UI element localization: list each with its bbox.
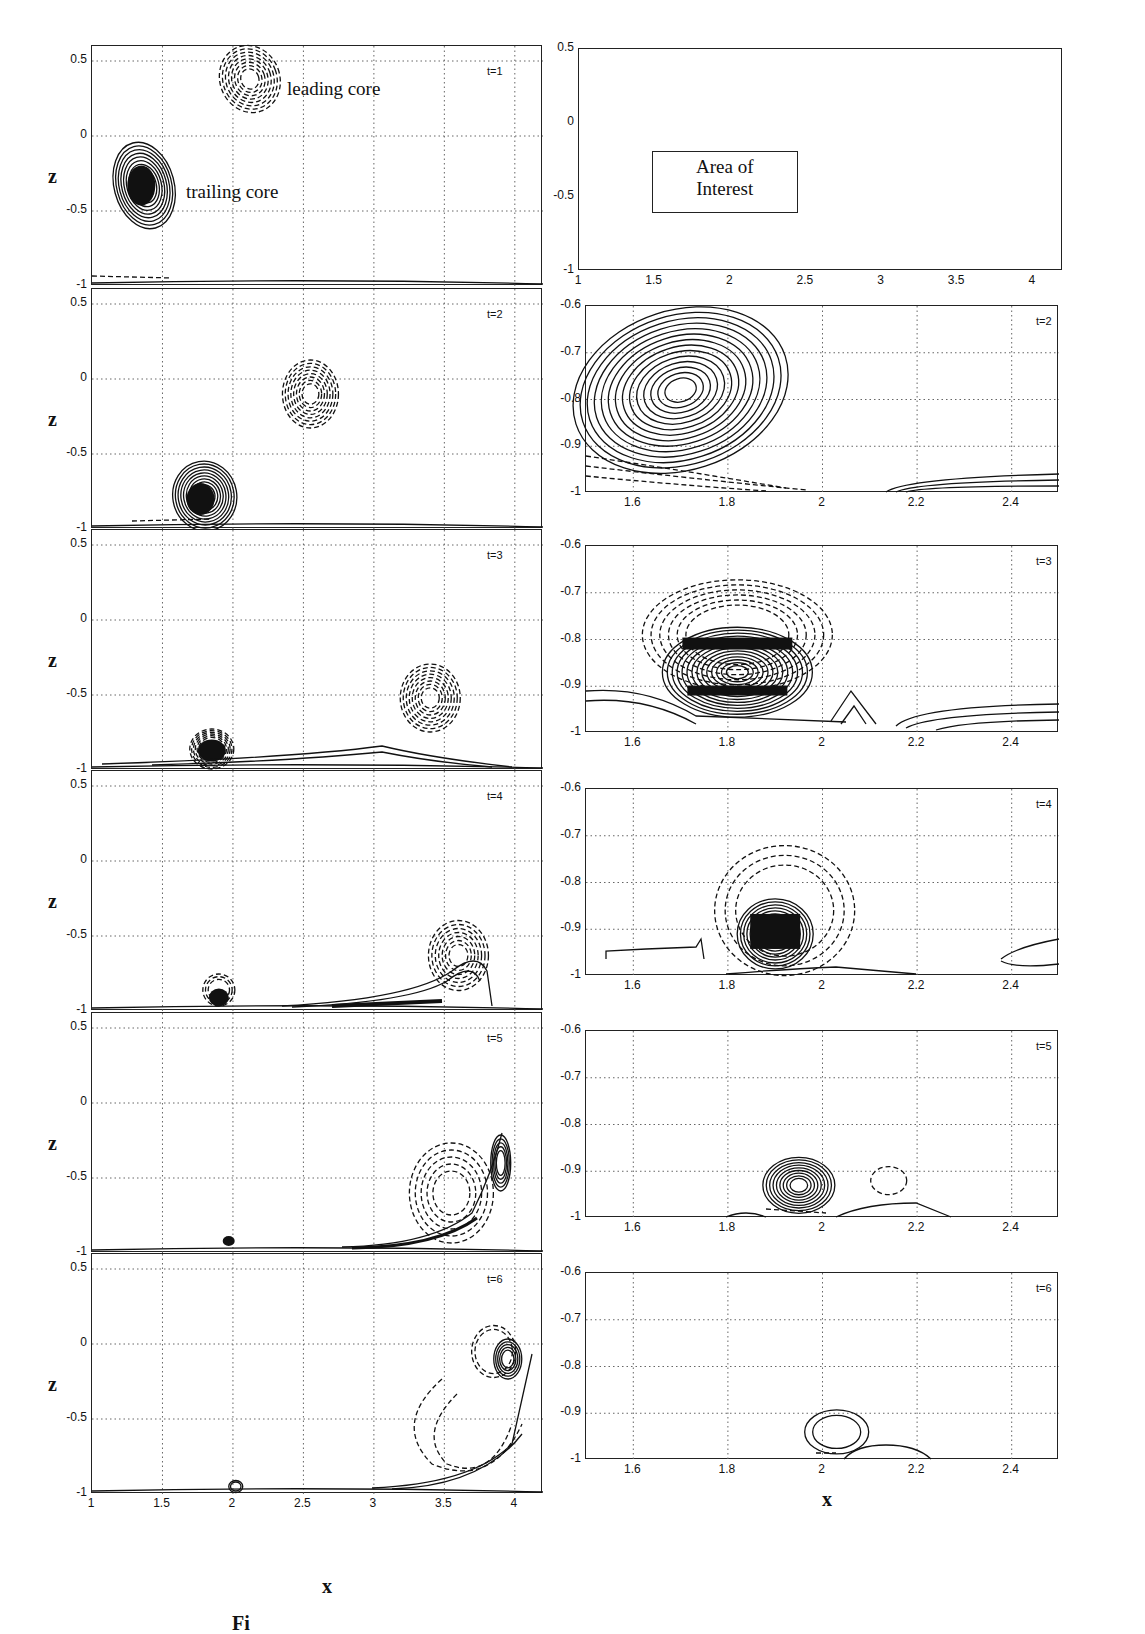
area-of-interest-line2: Interest <box>653 178 797 200</box>
x-tick-label: 2 <box>807 1220 837 1234</box>
y-tick-label: 0.5 <box>540 40 574 54</box>
x-tick-label: 2.2 <box>901 978 931 992</box>
contour-panel-right-5 <box>585 1030 1058 1217</box>
x-axis-label: x <box>322 1575 332 1598</box>
x-tick-label: 1.8 <box>712 978 742 992</box>
contour-panel-right-4 <box>585 788 1058 975</box>
x-tick-label: 3 <box>866 273 896 287</box>
x-tick-label: 2 <box>807 735 837 749</box>
x-tick-label: 1.6 <box>617 978 647 992</box>
x-tick-label: 1.6 <box>617 735 647 749</box>
y-tick-label: -0.7 <box>547 827 581 841</box>
time-label: t=5 <box>1036 1040 1052 1052</box>
contour-panel-right-3 <box>585 545 1058 732</box>
y-tick-label: -1 <box>53 1002 87 1016</box>
x-tick-label: 1.8 <box>712 1220 742 1234</box>
y-tick-label: 0.5 <box>53 1260 87 1274</box>
contour-panel-left-4 <box>91 770 542 1010</box>
y-tick-label: -0.8 <box>547 1358 581 1372</box>
x-tick-label: 2.2 <box>901 1462 931 1476</box>
y-tick-label: -0.8 <box>547 874 581 888</box>
time-label: t=3 <box>1036 555 1052 567</box>
leading-core-label: leading core <box>287 78 380 100</box>
y-tick-label: 0 <box>53 127 87 141</box>
contour-panel-right-6 <box>585 1272 1058 1459</box>
y-tick-label: -0.9 <box>547 677 581 691</box>
contour-panel-right-2 <box>585 305 1058 492</box>
x-tick-label: 2.5 <box>790 273 820 287</box>
y-tick-label: -1 <box>53 520 87 534</box>
x-tick-label: 2.2 <box>901 1220 931 1234</box>
y-tick-label: -0.5 <box>540 188 574 202</box>
area-of-interest-box: Area ofInterest <box>652 151 798 213</box>
z-axis-label: z <box>48 1132 57 1155</box>
contour-plot <box>586 789 1059 976</box>
y-tick-label: 0.5 <box>53 777 87 791</box>
x-tick-label: 2.2 <box>901 495 931 509</box>
x-tick-label: 2.5 <box>287 1496 317 1510</box>
time-label: t=6 <box>1036 1282 1052 1294</box>
x-tick-label: 1 <box>76 1496 106 1510</box>
z-axis-label: z <box>48 165 57 188</box>
x-tick-label: 2.4 <box>996 1462 1026 1476</box>
x-tick-label: 1.5 <box>639 273 669 287</box>
y-tick-label: -0.8 <box>547 631 581 645</box>
x-tick-label: 4 <box>499 1496 529 1510</box>
y-tick-label: -0.5 <box>53 202 87 216</box>
y-tick-label: 0.5 <box>53 52 87 66</box>
x-tick-label: 1.8 <box>712 735 742 749</box>
time-label: t=6 <box>487 1273 503 1285</box>
y-tick-label: -0.5 <box>53 1169 87 1183</box>
contour-plot <box>92 1254 543 1494</box>
y-tick-label: -0.9 <box>547 920 581 934</box>
y-tick-label: 0 <box>53 1094 87 1108</box>
x-tick-label: 2 <box>714 273 744 287</box>
time-label: t=2 <box>1036 315 1052 327</box>
x-tick-label: 2.4 <box>996 978 1026 992</box>
y-tick-label: 0 <box>540 114 574 128</box>
y-tick-label: 0 <box>53 852 87 866</box>
y-tick-label: -0.6 <box>547 780 581 794</box>
x-tick-label: 4 <box>1017 273 1047 287</box>
contour-plot <box>586 1273 1059 1460</box>
y-tick-label: -1 <box>547 1209 581 1223</box>
x-tick-label: 1.5 <box>146 1496 176 1510</box>
y-tick-label: 0.5 <box>53 295 87 309</box>
y-tick-label: -0.8 <box>547 391 581 405</box>
z-axis-label: z <box>48 649 57 672</box>
time-label: t=3 <box>487 549 503 561</box>
y-tick-label: -0.5 <box>53 1410 87 1424</box>
y-tick-label: -0.9 <box>547 1162 581 1176</box>
y-tick-label: 0 <box>53 370 87 384</box>
y-tick-label: -1 <box>547 724 581 738</box>
time-label: t=2 <box>487 308 503 320</box>
y-tick-label: -1 <box>53 277 87 291</box>
contour-plot <box>586 1031 1059 1218</box>
y-tick-label: -1 <box>547 484 581 498</box>
y-tick-label: -1 <box>547 1451 581 1465</box>
x-tick-label: 1 <box>563 273 593 287</box>
y-tick-label: -0.6 <box>547 1022 581 1036</box>
contour-plot <box>92 289 543 529</box>
z-axis-label: z <box>48 408 57 431</box>
y-tick-label: -0.6 <box>547 297 581 311</box>
y-tick-label: -0.6 <box>547 1264 581 1278</box>
y-tick-label: -0.7 <box>547 1311 581 1325</box>
y-tick-label: -0.7 <box>547 584 581 598</box>
contour-panel-left-5 <box>91 1012 542 1252</box>
y-tick-label: -1 <box>53 1244 87 1258</box>
x-axis-label: x <box>822 1488 832 1511</box>
contour-plot <box>92 1013 543 1253</box>
y-tick-label: 0 <box>53 1335 87 1349</box>
contour-panel-left-6 <box>91 1253 542 1493</box>
x-tick-label: 1.6 <box>617 1220 647 1234</box>
x-tick-label: 2.4 <box>996 735 1026 749</box>
y-tick-label: 0 <box>53 611 87 625</box>
x-tick-label: 3.5 <box>941 273 971 287</box>
contour-plot <box>586 546 1059 733</box>
x-tick-label: 2 <box>807 1462 837 1476</box>
z-axis-label: z <box>48 890 57 913</box>
y-tick-label: -0.7 <box>547 1069 581 1083</box>
area-of-interest-line1: Area of <box>653 156 797 178</box>
trailing-core-label: trailing core <box>186 181 278 203</box>
